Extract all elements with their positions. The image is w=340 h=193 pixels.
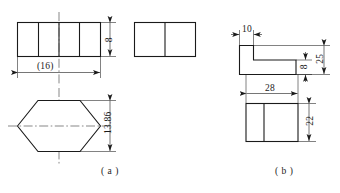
dimension-label-a-height: 8	[105, 29, 115, 49]
dimension-label-a-width: (16)	[37, 62, 54, 72]
engineering-drawing-canvas	[0, 0, 340, 193]
figure-caption-b: ( b )	[275, 166, 293, 176]
lbracket-front-view	[240, 46, 297, 75]
dimension-label-b-total-height: 25	[316, 48, 326, 70]
dimension-label-b-thickness: 8	[300, 58, 310, 76]
figure-caption-a: ( a )	[101, 166, 119, 176]
lbracket-top-view	[246, 104, 298, 142]
drawing-sheet: 8 (16) 13.86 ( a ) 10 8 25 28 22 ( b )	[0, 0, 340, 193]
dimension-label-b-step-width: 10	[242, 25, 252, 35]
prism-side-view	[135, 23, 196, 57]
dimension-label-b-depth: 22	[306, 110, 316, 132]
dimension-label-b-total-width: 28	[265, 84, 275, 94]
dimension-label-a-across-flats: 13.86	[104, 105, 114, 141]
